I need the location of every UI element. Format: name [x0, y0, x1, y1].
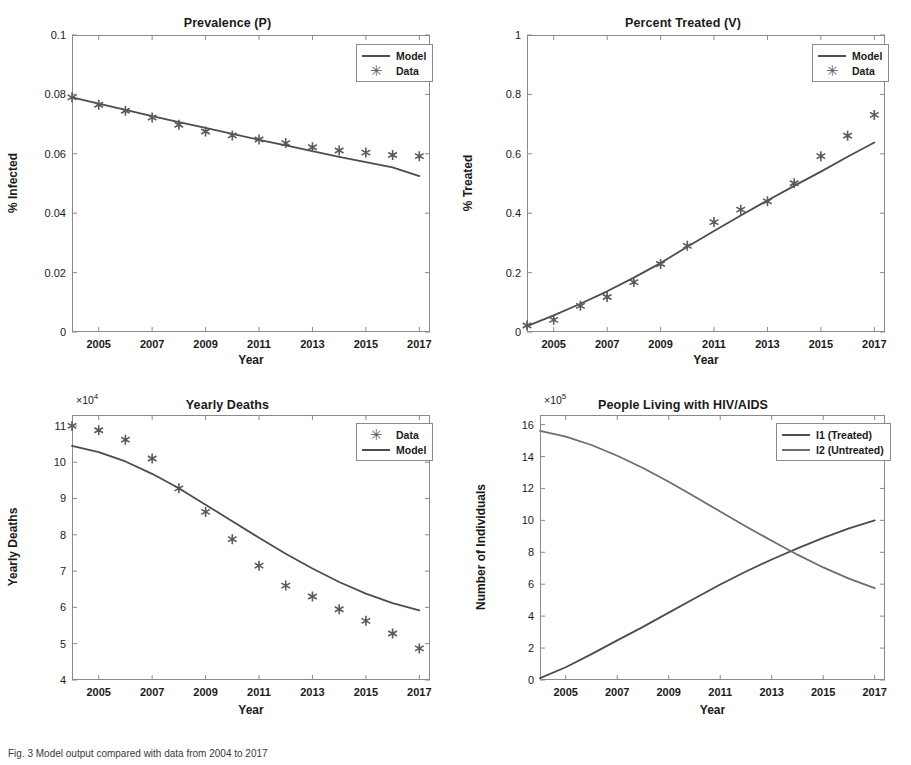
x-tick-label: 2005 [553, 686, 577, 698]
legend-entry-label: Model [396, 50, 426, 62]
y-tick-label: 0.04 [45, 207, 66, 219]
y-tick-label: 2 [528, 642, 534, 654]
legend-entry[interactable]: ✳Data [361, 63, 426, 78]
legend-star-marker-icon: ✳ [361, 428, 391, 441]
y-tick-label: 0 [528, 674, 534, 686]
subplot-people-living-with-hiv-aids: People Living with HIV/AIDS ×105 Number … [455, 385, 911, 730]
x-tick-label: 2007 [140, 338, 164, 350]
data-point-marker [121, 435, 130, 445]
y-tick-label: 0.8 [506, 88, 521, 100]
exponent-power: 4 [94, 392, 98, 401]
y-tick-label: 9 [60, 492, 66, 504]
x-tick-label: 2013 [759, 686, 783, 698]
data-point-marker [335, 604, 344, 614]
y-axis-exponent-yearly-deaths: ×104 [76, 392, 98, 406]
x-tick-label: 2011 [708, 686, 732, 698]
x-tick-label: 2011 [247, 338, 271, 350]
exponent-power: 5 [562, 392, 566, 401]
x-tick-label: 2017 [407, 686, 431, 698]
legend-entry-label: Model [396, 444, 426, 456]
legend-entry[interactable]: I2 (Untreated) [781, 442, 884, 457]
data-point-marker [388, 150, 397, 160]
y-tick-label: 1 [515, 29, 521, 41]
legend-percent-treated[interactable]: Model✳Data [812, 44, 889, 82]
y-tick-label: 4 [60, 674, 66, 686]
data-point-marker [817, 151, 826, 161]
y-tick-label: 0 [515, 326, 521, 338]
x-tick-label: 2013 [755, 338, 779, 350]
x-tick-label: 2011 [247, 686, 271, 698]
x-tick-label: 2005 [86, 338, 110, 350]
x-tick-label: 2015 [354, 338, 378, 350]
y-tick-label: 6 [528, 578, 534, 590]
legend-entry[interactable]: Model [817, 48, 882, 63]
y-tick-label: 8 [528, 546, 534, 558]
y-tick-label: 0.6 [506, 148, 521, 160]
series-model [72, 446, 419, 610]
legend-entry[interactable]: Model [361, 442, 426, 457]
y-axis-label-people-living-with-hiv-aids: Number of Individuals [473, 414, 487, 679]
series-data [68, 92, 424, 161]
x-axis-label-yearly-deaths: Year [72, 703, 430, 717]
x-tick-label: 2009 [648, 338, 672, 350]
legend-entry-label: Data [396, 429, 419, 441]
y-tick-label: 4 [528, 610, 534, 622]
legend-entry-label: Model [852, 50, 882, 62]
data-point-marker [201, 507, 210, 517]
x-tick-label: 2013 [300, 338, 324, 350]
data-point-marker [255, 561, 264, 571]
x-tick-label: 2007 [605, 686, 629, 698]
data-point-marker [362, 616, 371, 626]
data-point-marker [870, 110, 879, 120]
y-tick-label: 0.4 [506, 207, 521, 219]
legend-entry[interactable]: Model [361, 48, 426, 63]
data-point-marker [415, 643, 424, 653]
x-tick-label: 2017 [407, 338, 431, 350]
legend-entry[interactable]: ✳Data [361, 427, 426, 442]
subplot-yearly-deaths: Yearly Deaths ×104 Yearly Deaths Year ✳D… [0, 385, 455, 730]
y-tick-label: 8 [60, 529, 66, 541]
figure-container: Prevalence (P) % Infected Year Model✳Dat… [0, 0, 911, 765]
series-data [523, 110, 879, 331]
model-line [540, 520, 875, 678]
legend-entry-label: I2 (Untreated) [816, 444, 884, 456]
y-tick-label: 7 [60, 565, 66, 577]
y-tick-label: 10 [522, 514, 534, 526]
legend-entry-label: Data [396, 65, 419, 77]
x-tick-label: 2015 [354, 686, 378, 698]
y-tick-label: 14 [522, 451, 534, 463]
x-axis-label-people-living-with-hiv-aids: Year [540, 703, 885, 717]
legend-star-marker-icon: ✳ [817, 64, 847, 77]
y-tick-label: 0.2 [506, 267, 521, 279]
y-tick-label: 16 [522, 419, 534, 431]
y-axis-exponent-people-living-with-hiv-aids: ×105 [544, 392, 566, 406]
data-point-marker [843, 131, 852, 141]
data-point-marker [415, 151, 424, 161]
data-point-marker [388, 629, 397, 639]
x-tick-label: 2007 [140, 686, 164, 698]
x-tick-label: 2015 [809, 338, 833, 350]
subplot-prevalence: Prevalence (P) % Infected Year Model✳Dat… [0, 8, 455, 380]
x-tick-label: 2009 [193, 338, 217, 350]
legend-line-marker-icon [817, 49, 847, 62]
x-tick-label: 2017 [862, 338, 886, 350]
x-tick-label: 2005 [86, 686, 110, 698]
data-point-marker [710, 217, 719, 227]
legend-prevalence[interactable]: Model✳Data [356, 44, 433, 82]
x-axis-label-prevalence: Year [72, 353, 430, 367]
subplot-percent-treated: Percent Treated (V) % Treated Year Model… [455, 8, 911, 380]
y-axis-label-percent-treated: % Treated [460, 34, 474, 331]
figure-caption: Fig. 3 Model output compared with data f… [8, 748, 903, 759]
exponent-base: 10 [82, 394, 94, 406]
y-tick-label: 11 [55, 420, 66, 432]
y-tick-label: 0.02 [45, 267, 66, 279]
data-point-marker [148, 454, 157, 464]
series-model [527, 143, 874, 327]
legend-entry[interactable]: ✳Data [817, 63, 882, 78]
x-tick-label: 2009 [656, 686, 680, 698]
x-tick-label: 2009 [193, 686, 217, 698]
legend-yearly-deaths[interactable]: ✳DataModel [356, 423, 433, 461]
legend-people-living-with-hiv-aids[interactable]: I1 (Treated)I2 (Untreated) [776, 423, 891, 461]
legend-entry[interactable]: I1 (Treated) [781, 427, 884, 442]
x-axis-label-percent-treated: Year [527, 353, 885, 367]
